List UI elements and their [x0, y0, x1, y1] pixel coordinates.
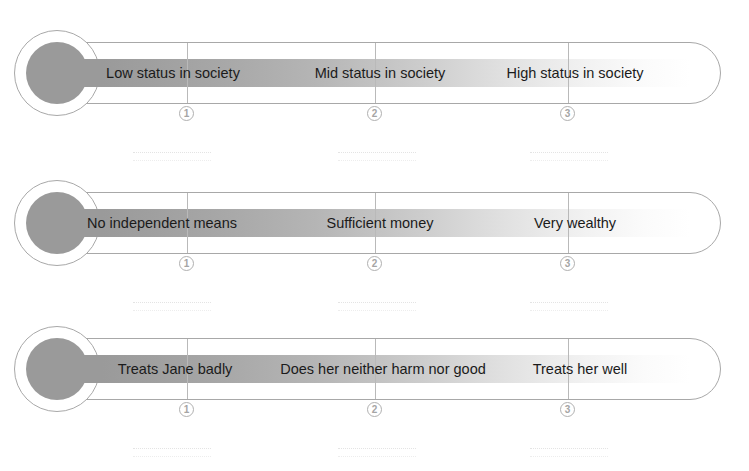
answer-line-2[interactable] — [338, 302, 416, 311]
scale-marker-1[interactable]: 1 — [179, 402, 194, 417]
scale-marker-3[interactable]: 3 — [560, 402, 575, 417]
scale-label-mid: Mid status in society — [285, 62, 475, 84]
scale-label-high: High status in society — [480, 62, 670, 84]
answer-line-1[interactable] — [133, 302, 211, 311]
scale-label-low: Low status in society — [78, 62, 268, 84]
answer-line-1[interactable] — [133, 152, 211, 161]
scale-marker-2[interactable]: 2 — [367, 106, 382, 121]
answer-line-2[interactable] — [338, 448, 416, 457]
scale-marker-2[interactable]: 2 — [367, 402, 382, 417]
answer-line-3[interactable] — [530, 152, 608, 161]
scale-marker-1[interactable]: 1 — [179, 106, 194, 121]
scale-label-high: Treats her well — [495, 358, 665, 380]
answer-line-2[interactable] — [338, 152, 416, 161]
answer-line-3[interactable] — [530, 302, 608, 311]
answer-line-3[interactable] — [530, 448, 608, 457]
worksheet-canvas: Low status in society Mid status in soci… — [0, 0, 749, 471]
answer-line-1[interactable] — [133, 448, 211, 457]
scale-label-low: No independent means — [62, 212, 262, 234]
scale-marker-1[interactable]: 1 — [179, 256, 194, 271]
scale-label-high: Very wealthy — [480, 212, 670, 234]
scale-marker-3[interactable]: 3 — [560, 106, 575, 121]
scale-label-mid: Sufficient money — [285, 212, 475, 234]
scale-label-mid: Does her neither harm nor good — [258, 358, 508, 380]
scale-marker-2[interactable]: 2 — [367, 256, 382, 271]
scale-marker-3[interactable]: 3 — [560, 256, 575, 271]
scale-label-low: Treats Jane badly — [90, 358, 260, 380]
